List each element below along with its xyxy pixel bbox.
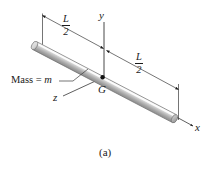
left-half-length-denominator: 2 (62, 27, 70, 38)
right-half-length-numerator: L (135, 52, 143, 63)
right-half-length-denominator: 2 (135, 65, 143, 76)
right-half-length-dimension: L 2 (135, 52, 143, 75)
center-of-mass-point (100, 75, 104, 79)
y-axis-label: y (99, 10, 104, 21)
left-half-length-numerator: L (62, 14, 70, 25)
figure-container: y x z G Mass = m L 2 L 2 (a) (0, 0, 215, 170)
left-half-length-dimension: L 2 (62, 14, 70, 37)
mass-annotation: Mass = m (11, 75, 52, 86)
figure-caption: (a) (99, 147, 111, 158)
center-of-mass-label: G (98, 84, 106, 95)
z-axis-label: z (53, 92, 57, 103)
mass-annotation-symbol: m (44, 74, 52, 85)
x-axis-label: x (195, 122, 200, 133)
mass-annotation-prefix: Mass = (11, 74, 44, 85)
left-dimension-line (43, 16, 104, 49)
